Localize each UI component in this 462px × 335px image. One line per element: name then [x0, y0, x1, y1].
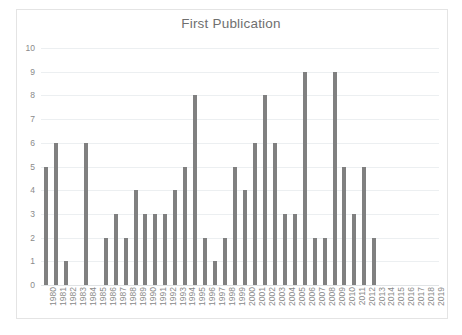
plot-area: [41, 48, 439, 285]
bar: [44, 167, 48, 286]
x-axis-tick-label: 2005: [298, 287, 307, 306]
bar: [303, 72, 307, 285]
bar: [114, 214, 118, 285]
bar: [283, 214, 287, 285]
bar: [213, 261, 217, 285]
bar: [153, 214, 157, 285]
chart-title: First Publication: [0, 16, 462, 31]
y-axis-tick-label: 1: [30, 256, 35, 266]
x-axis-tick-label: 1985: [99, 287, 108, 306]
x-axis-tick-label: 1990: [149, 287, 158, 306]
y-axis-tick-label: 7: [30, 114, 35, 124]
bar: [263, 95, 267, 285]
x-axis-tick-label: 2011: [358, 287, 367, 305]
y-axis-tick-label: 9: [30, 67, 35, 77]
bar: [313, 238, 317, 285]
x-axis-tick-label: 2012: [368, 287, 377, 306]
bar: [243, 190, 247, 285]
x-axis-tick-label: 2016: [407, 287, 416, 306]
x-axis-tick-label: 1988: [129, 287, 138, 306]
y-axis-tick-label: 2: [30, 233, 35, 243]
x-axis-tick-label: 2010: [348, 287, 357, 306]
gridline: [41, 119, 439, 120]
bar: [352, 214, 356, 285]
bar: [233, 167, 237, 286]
x-axis-tick-label: 2014: [387, 287, 396, 306]
gridline: [41, 214, 439, 215]
x-axis-tick-label: 1980: [49, 287, 58, 306]
gridline: [41, 261, 439, 262]
x-axis-tick-label: 1993: [179, 287, 188, 306]
x-axis-tick-label: 2002: [268, 287, 277, 306]
x-axis-tick-label: 1983: [79, 287, 88, 306]
gridline: [41, 238, 439, 239]
x-axis-tick-label: 2001: [258, 287, 267, 306]
bar: [104, 238, 108, 285]
x-axis-tick-label: 1996: [208, 287, 217, 306]
bar: [362, 167, 366, 286]
y-axis-tick-label: 6: [30, 138, 35, 148]
x-axis-tick-label: 2007: [318, 287, 327, 306]
x-axis: 1980198119821983198419851986198719881989…: [41, 287, 439, 333]
y-axis-tick-label: 3: [30, 209, 35, 219]
x-axis-tick-label: 2015: [397, 287, 406, 306]
bar: [372, 238, 376, 285]
gridline: [41, 167, 439, 168]
gridline: [41, 72, 439, 73]
x-axis-tick-label: 1998: [228, 287, 237, 306]
x-axis-tick-label: 1981: [59, 287, 68, 306]
bar: [293, 214, 297, 285]
bar: [253, 143, 257, 285]
x-axis-tick-label: 2006: [308, 287, 317, 306]
x-axis-tick-label: 1982: [69, 287, 78, 306]
gridline: [41, 48, 439, 49]
x-axis-tick-label: 2000: [248, 287, 257, 306]
x-axis-tick-label: 2003: [278, 287, 287, 306]
gridline: [41, 190, 439, 191]
chart-container: First Publication 012345678910 198019811…: [0, 0, 462, 335]
bar: [193, 95, 197, 285]
bar: [124, 238, 128, 285]
y-axis-tick-label: 8: [30, 90, 35, 100]
bar: [342, 167, 346, 286]
x-axis-tick-label: 2019: [437, 287, 446, 306]
gridline: [41, 143, 439, 144]
bar: [64, 261, 68, 285]
x-axis-tick-label: 1987: [119, 287, 128, 306]
x-axis-tick-label: 2004: [288, 287, 297, 306]
x-axis-tick-label: 2008: [328, 287, 337, 306]
gridline: [41, 285, 439, 286]
bar: [143, 214, 147, 285]
x-axis-tick-label: 2009: [338, 287, 347, 306]
bar: [163, 214, 167, 285]
x-axis-tick-label: 1997: [218, 287, 227, 306]
x-axis-tick-label: 1986: [109, 287, 118, 306]
x-axis-tick-label: 2013: [378, 287, 387, 306]
y-axis-tick-label: 4: [30, 185, 35, 195]
y-axis-tick-label: 0: [30, 280, 35, 290]
x-axis-tick-label: 2017: [417, 287, 426, 306]
bar: [84, 143, 88, 285]
gridline: [41, 95, 439, 96]
x-axis-tick-label: 1999: [238, 287, 247, 306]
bar: [183, 167, 187, 286]
bar: [54, 143, 58, 285]
bar: [134, 190, 138, 285]
bar: [273, 143, 277, 285]
x-axis-tick-label: 1989: [139, 287, 148, 306]
bar: [203, 238, 207, 285]
bar: [223, 238, 227, 285]
y-axis-tick-label: 5: [30, 162, 35, 172]
bar: [173, 190, 177, 285]
bar: [333, 72, 337, 285]
x-axis-tick-label: 1984: [89, 287, 98, 306]
bar: [323, 238, 327, 285]
y-axis: 012345678910: [0, 48, 41, 285]
x-axis-tick-label: 1992: [169, 287, 178, 306]
x-axis-tick-label: 1995: [198, 287, 207, 306]
x-axis-tick-label: 1994: [188, 287, 197, 306]
x-axis-tick-label: 1991: [159, 287, 168, 306]
y-axis-tick-label: 10: [26, 43, 35, 53]
x-axis-tick-label: 2018: [427, 287, 436, 306]
